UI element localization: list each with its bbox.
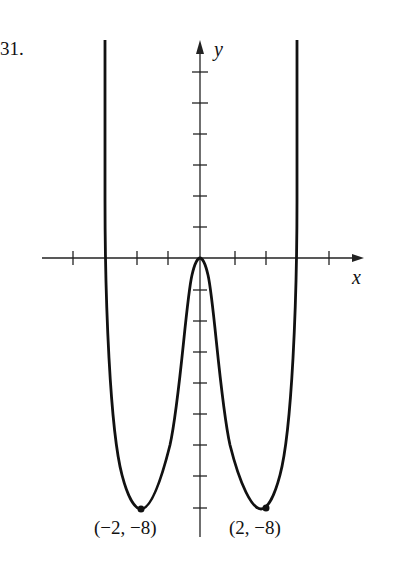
min-point-left: [138, 506, 145, 513]
min-label-left: (−2, −8): [94, 517, 157, 539]
min-point-right: [263, 505, 270, 512]
y-axis-arrow-icon: [196, 40, 204, 54]
x-axis-arrow-icon: [352, 254, 364, 262]
x-axis-label: x: [351, 266, 361, 288]
x-axis: x: [42, 251, 364, 288]
min-label-right: (2, −8): [229, 517, 281, 539]
y-axis-label: y: [212, 38, 223, 61]
y-axis: y: [192, 38, 223, 537]
graph: x y (−2, −8) (2, −8): [0, 0, 393, 564]
function-curve: [105, 40, 297, 509]
